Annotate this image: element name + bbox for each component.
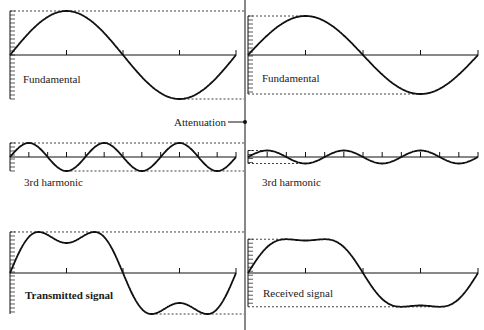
fourier-attenuation-diagram: Fundamental Fundamental Attenuation 3rd … — [0, 0, 484, 330]
label-attenuation: Attenuation — [174, 116, 226, 128]
label-3rd-harmonic-transmitted: 3rd harmonic — [24, 176, 83, 188]
label-transmitted-signal: Transmitted signal — [25, 289, 113, 301]
waveform-panels — [10, 11, 478, 314]
label-fundamental-received: Fundamental — [262, 72, 319, 84]
label-3rd-harmonic-received: 3rd harmonic — [262, 176, 321, 188]
label-received-signal: Received signal — [263, 287, 333, 299]
label-fundamental-transmitted: Fundamental — [23, 73, 80, 85]
